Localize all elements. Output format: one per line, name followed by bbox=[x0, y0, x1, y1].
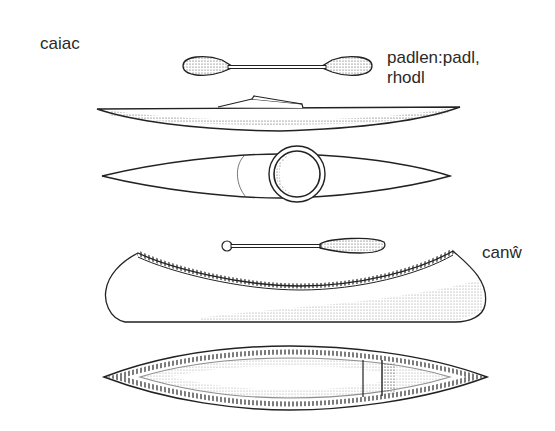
canoe-top bbox=[104, 346, 487, 410]
kayak-label: caiac bbox=[40, 34, 80, 54]
canoe-side bbox=[106, 251, 486, 322]
kayak-top bbox=[102, 146, 450, 202]
paddle-label-line2: rhodl bbox=[387, 68, 480, 88]
kayak-side bbox=[97, 96, 460, 131]
paddle-label-line1: padlen:padl, bbox=[387, 48, 480, 68]
canoe-label: canŵ bbox=[482, 243, 522, 263]
kayak-paddle bbox=[183, 57, 372, 76]
canoe-paddle bbox=[222, 238, 385, 253]
paddle-label: padlen:padl, rhodl bbox=[387, 48, 480, 88]
